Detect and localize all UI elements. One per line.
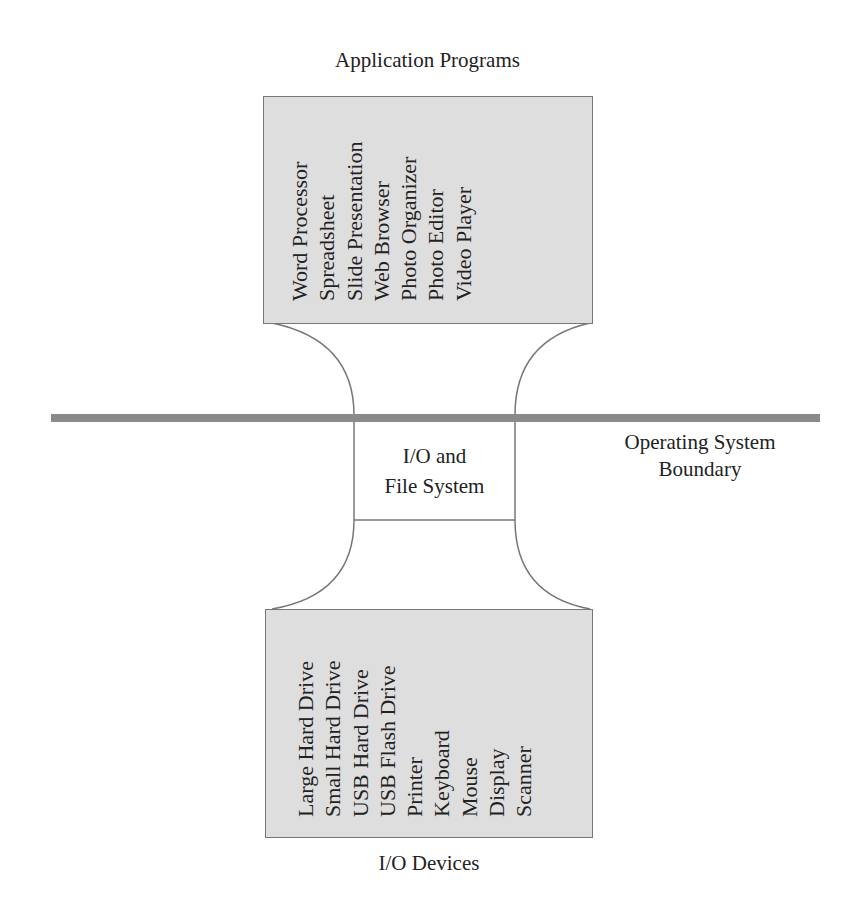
device-item: Large Hard Drive [292, 661, 319, 817]
os-boundary-line2: Boundary [605, 456, 795, 483]
app-item: Photo Organizer [395, 142, 422, 301]
app-item: Word Processor [286, 142, 313, 301]
io-devices-label: I/O Devices [265, 851, 593, 876]
app-item: Spreadsheet [313, 142, 340, 301]
application-programs-label: Application Programs [263, 48, 592, 73]
device-item: Keyboard [428, 661, 455, 817]
application-list: Word Processor Spreadsheet Slide Present… [286, 142, 477, 301]
io-file-system-line2: File System [354, 471, 515, 501]
device-item: USB Flash Drive [374, 661, 401, 817]
device-item: Mouse [456, 661, 483, 817]
io-file-system-box: I/O and File System [354, 441, 515, 501]
io-file-system-line1: I/O and [354, 441, 515, 471]
app-item: Slide Presentation [341, 142, 368, 301]
device-item: Display [483, 661, 510, 817]
device-list: Large Hard Drive Small Hard Drive USB Ha… [292, 661, 538, 817]
device-item: Printer [401, 661, 428, 817]
application-programs-box: Word Processor Spreadsheet Slide Present… [263, 96, 593, 324]
os-boundary-line1: Operating System [605, 429, 795, 456]
app-item: Video Player [450, 142, 477, 301]
app-item: Web Browser [368, 142, 395, 301]
os-boundary-label: Operating System Boundary [605, 429, 795, 483]
io-devices-box: Large Hard Drive Small Hard Drive USB Ha… [265, 609, 593, 838]
device-item: Small Hard Drive [319, 661, 346, 817]
device-item: Scanner [510, 661, 537, 817]
device-item: USB Hard Drive [347, 661, 374, 817]
app-item: Photo Editor [422, 142, 449, 301]
os-boundary-bar [51, 414, 820, 422]
